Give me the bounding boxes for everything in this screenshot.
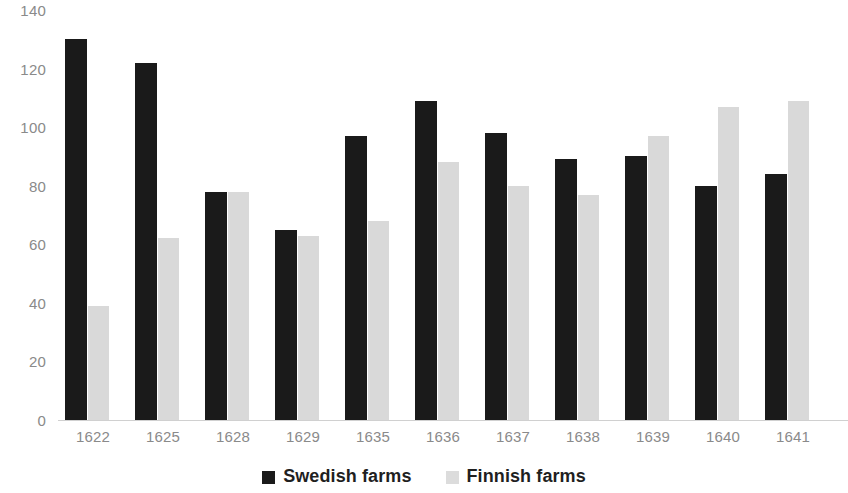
x-axis-tick: 1640 xyxy=(688,428,758,445)
bar-group xyxy=(618,0,688,420)
y-axis-tick: 120 xyxy=(20,60,46,77)
x-axis-tick: 1635 xyxy=(338,428,408,445)
x-axis-tick: 1628 xyxy=(198,428,268,445)
bar-finnish-farms-1628 xyxy=(228,192,249,420)
bar-swedish-farms-1629 xyxy=(275,230,297,420)
y-axis-tick: 100 xyxy=(20,119,46,136)
bar-finnish-farms-1622 xyxy=(88,306,109,420)
y-axis-tick: 80 xyxy=(29,177,46,194)
bars-container xyxy=(58,0,848,425)
bar-finnish-farms-1638 xyxy=(578,195,599,421)
bar-group xyxy=(58,0,128,420)
legend-swatch-icon xyxy=(446,471,459,484)
x-axis-tick: 1622 xyxy=(58,428,128,445)
bar-finnish-farms-1636 xyxy=(438,162,459,420)
bar-swedish-farms-1636 xyxy=(415,101,437,420)
y-axis-tick: 0 xyxy=(37,412,46,429)
plot-area: 140 120 100 80 60 40 20 0 xyxy=(0,0,848,425)
y-axis: 140 120 100 80 60 40 20 0 xyxy=(0,0,58,425)
bar-group xyxy=(548,0,618,420)
y-axis-tick: 140 xyxy=(20,2,46,19)
bar-swedish-farms-1641 xyxy=(765,174,787,420)
bar-swedish-farms-1628 xyxy=(205,192,227,420)
bar-group xyxy=(478,0,548,420)
x-axis-tick: 1636 xyxy=(408,428,478,445)
x-axis-tick: 1629 xyxy=(268,428,338,445)
x-axis-tick: 1638 xyxy=(548,428,618,445)
bar-finnish-farms-1641 xyxy=(788,101,809,420)
x-axis-tick: 1625 xyxy=(128,428,198,445)
x-axis: 1622162516281629163516361637163816391640… xyxy=(58,428,848,454)
legend-item-finnish-farms: Finnish farms xyxy=(446,466,586,487)
bar-finnish-farms-1637 xyxy=(508,186,529,420)
bar-finnish-farms-1639 xyxy=(648,136,669,420)
legend-label: Finnish farms xyxy=(467,466,586,487)
bar-finnish-farms-1625 xyxy=(158,238,179,420)
bar-swedish-farms-1622 xyxy=(65,39,87,420)
chart-legend: Swedish farms Finnish farms xyxy=(0,462,848,490)
bar-finnish-farms-1635 xyxy=(368,221,389,420)
bar-group xyxy=(758,0,828,420)
bar-group xyxy=(198,0,268,420)
bar-group xyxy=(408,0,478,420)
bar-group xyxy=(338,0,408,420)
bar-swedish-farms-1638 xyxy=(555,159,577,420)
bar-group xyxy=(128,0,198,420)
bar-finnish-farms-1640 xyxy=(718,107,739,420)
bar-finnish-farms-1629 xyxy=(298,236,319,421)
bar-group xyxy=(688,0,758,420)
bar-swedish-farms-1640 xyxy=(695,186,717,420)
bar-chart: 140 120 100 80 60 40 20 0 16221625162816… xyxy=(0,0,848,493)
y-axis-tick: 20 xyxy=(29,353,46,370)
x-axis-tick: 1637 xyxy=(478,428,548,445)
bar-swedish-farms-1635 xyxy=(345,136,367,420)
legend-swatch-icon xyxy=(262,471,275,484)
y-axis-tick: 60 xyxy=(29,236,46,253)
legend-item-swedish-farms: Swedish farms xyxy=(262,466,411,487)
x-axis-tick: 1639 xyxy=(618,428,688,445)
bar-swedish-farms-1637 xyxy=(485,133,507,420)
bar-swedish-farms-1639 xyxy=(625,156,647,420)
y-axis-tick: 40 xyxy=(29,294,46,311)
bar-group xyxy=(268,0,338,420)
legend-label: Swedish farms xyxy=(283,466,411,487)
x-axis-tick: 1641 xyxy=(758,428,828,445)
bar-swedish-farms-1625 xyxy=(135,63,157,420)
